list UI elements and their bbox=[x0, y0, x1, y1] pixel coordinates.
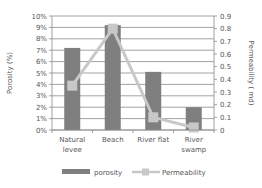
left-tick-label: 6% bbox=[36, 58, 47, 66]
left-tick-label: 0% bbox=[36, 127, 47, 135]
right-tick-label: 0.1 bbox=[220, 114, 231, 122]
permeability-marker bbox=[189, 122, 199, 132]
right-tick-label: 0.6 bbox=[220, 51, 232, 59]
legend-swatch-porosity bbox=[62, 169, 90, 174]
permeability-marker bbox=[67, 81, 77, 91]
right-axis-labels: 00.10.20.30.40.50.60.70.80.9 bbox=[220, 13, 232, 135]
permeability-marker bbox=[108, 24, 118, 34]
right-tick-label: 0.4 bbox=[220, 76, 232, 84]
right-tick-label: 0.7 bbox=[220, 38, 231, 46]
porosity-bars bbox=[64, 25, 202, 130]
left-tick-label: 8% bbox=[36, 35, 47, 43]
right-tick-label: 0.2 bbox=[220, 101, 231, 109]
left-tick-label: 1% bbox=[36, 115, 47, 123]
left-tick-label: 3% bbox=[36, 92, 47, 100]
category-label: swamp bbox=[181, 146, 206, 154]
legend: porosityPermeability bbox=[62, 169, 206, 177]
right-tick-label: 0.5 bbox=[220, 63, 231, 71]
left-axis-title: Porosity (%) bbox=[6, 52, 14, 94]
right-tick-label: 0.8 bbox=[220, 25, 231, 33]
left-tick-label: 5% bbox=[36, 70, 47, 78]
combo-chart: 0%1%2%3%4%5%6%7%8%9%10% 00.10.20.30.40.5… bbox=[0, 0, 262, 188]
right-tick-label: 0.9 bbox=[220, 13, 231, 21]
right-tick-label: 0 bbox=[220, 127, 224, 135]
category-label: levee bbox=[63, 146, 82, 154]
category-label: River flat bbox=[137, 136, 169, 144]
category-label: Beach bbox=[102, 136, 124, 144]
legend-label-permeability: Permeability bbox=[162, 169, 206, 177]
left-tick-label: 9% bbox=[36, 24, 47, 32]
left-tick-label: 2% bbox=[36, 104, 47, 112]
permeability-line bbox=[67, 24, 199, 133]
left-tick-label: 4% bbox=[36, 81, 47, 89]
category-label: River bbox=[185, 136, 203, 144]
left-tick-label: 7% bbox=[36, 47, 47, 55]
category-labels: NaturalleveeBeachRiver flatRiverswamp bbox=[59, 136, 206, 154]
left-axis-labels: 0%1%2%3%4%5%6%7%8%9%10% bbox=[31, 13, 47, 135]
permeability-marker bbox=[148, 112, 158, 122]
legend-label-porosity: porosity bbox=[94, 169, 122, 177]
right-tick-label: 0.3 bbox=[220, 89, 231, 97]
category-label: Natural bbox=[59, 136, 85, 144]
right-axis-title: Permeability ( md) bbox=[247, 41, 255, 106]
left-tick-label: 10% bbox=[31, 13, 47, 21]
